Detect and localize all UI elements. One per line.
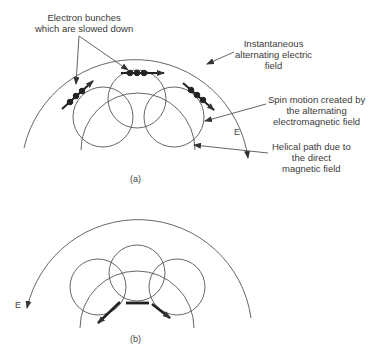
leader-bunches-left (76, 36, 79, 84)
spin-circle-middle-a (108, 70, 166, 128)
label-line: magnetic field (272, 163, 351, 174)
field-label-e-b: E (15, 300, 21, 310)
label-line: Spin motion created by (268, 94, 365, 105)
label-spin-motion: Spin motion created by the alternating e… (268, 94, 365, 127)
spin-circle-middle-b (109, 245, 165, 301)
label-line: Instantaneous (235, 38, 312, 49)
panel-a (24, 36, 268, 158)
helical-path-arc-a (81, 93, 195, 150)
label-line: Helical path due to (272, 141, 351, 152)
field-label-e-a: E (234, 127, 240, 137)
caption-a: (a) (130, 174, 141, 184)
label-line: field (235, 60, 312, 71)
electron-bunches-a (62, 70, 214, 110)
label-line: the alternating (268, 105, 365, 116)
label-line: Electron bunches (35, 12, 133, 23)
caption-b: (b) (130, 334, 141, 344)
label-line: the direct (272, 152, 351, 163)
label-electric-field: Instantaneous alternating electric field (235, 38, 312, 71)
leader-helical-path (194, 145, 268, 153)
leader-bunches-top (79, 36, 128, 70)
label-line: alternating electric (235, 49, 312, 60)
leader-electric-field (207, 52, 234, 64)
label-line: which are slowed down (35, 23, 133, 34)
electron-bunches-b (98, 302, 170, 323)
diagram-canvas (0, 0, 381, 358)
panel-b (27, 220, 251, 328)
label-line: electromagnetic field (268, 116, 365, 127)
label-electron-bunches: Electron bunches which are slowed down (35, 12, 133, 34)
helical-path-arc-b (80, 271, 194, 328)
label-helical-path: Helical path due to the direct magnetic … (272, 141, 351, 174)
